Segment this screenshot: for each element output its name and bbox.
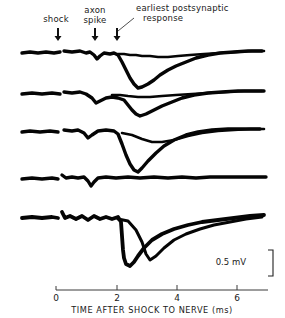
scale-bar-bracket [268,250,273,276]
scale-bar-label: 0.5 mV [216,257,246,267]
annotation-label-axon-spike-line1: axon [84,5,105,15]
annotation-label-earliest-response-line1: earliest postsynaptic [136,3,229,13]
x-axis-tick-label: 2 [114,293,120,303]
trace-sweep-4 [22,175,266,186]
annotation-label-shock: shock [43,14,69,24]
traces-group [22,51,266,266]
annotation-group: shock axon spike earliest postsynaptic r… [43,3,229,41]
x-axis-title: TIME AFTER SHOCK TO NERVE (ms) [70,305,232,315]
annotation-label-earliest-response-line2: response [143,13,183,23]
trace-main [62,175,266,186]
x-axis-tick-label: 4 [174,293,180,303]
x-axis-tick-label: 0 [53,293,59,303]
annotation-label-axon-spike-line2: spike [83,15,106,25]
trace-sweep-3 [22,129,264,172]
scale-bar-group: 0.5 mV [216,250,273,276]
trace-stub [22,93,60,94]
trace-stub [22,131,58,132]
trace-overlay [122,129,264,142]
trace-sweep-2 [22,91,264,116]
trace-main [64,129,260,172]
leader-line-earliest-response [118,18,134,31]
trace-overlay [118,51,264,57]
x-axis-group: 0 2 4 6 TIME AFTER SHOCK TO NERVE (ms) [53,285,268,315]
trace-stub [22,217,58,218]
figure-root: shock axon spike earliest postsynaptic r… [0,0,285,318]
trace-stub [22,52,60,53]
down-arrow-icon-axon-spike [92,28,99,41]
trace-sweep-1 [22,51,264,88]
x-axis-tick-label: 6 [234,293,240,303]
trace-stub [22,178,58,179]
down-arrow-icon-shock [55,28,62,41]
